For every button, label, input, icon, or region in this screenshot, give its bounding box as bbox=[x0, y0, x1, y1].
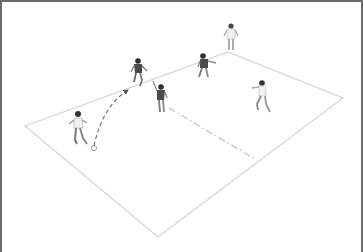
player-dark-2 bbox=[153, 81, 167, 112]
halfway-line bbox=[169, 108, 255, 159]
player-light-top bbox=[224, 23, 238, 50]
ball-icon bbox=[91, 145, 96, 150]
player-light-right bbox=[252, 80, 270, 112]
pitch-illustration bbox=[2, 2, 363, 252]
player-kicker bbox=[69, 111, 87, 144]
pitch-outline bbox=[25, 52, 343, 237]
diagram-frame bbox=[0, 0, 363, 252]
